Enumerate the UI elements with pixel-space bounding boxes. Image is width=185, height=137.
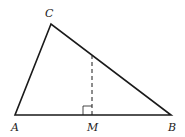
right-angle-marker xyxy=(83,106,92,115)
triangle-abc xyxy=(15,24,171,115)
label-m: M xyxy=(86,121,99,134)
label-c: C xyxy=(45,7,54,20)
triangle-diagram: C A M B xyxy=(0,0,185,137)
label-b: B xyxy=(167,121,176,134)
label-a: A xyxy=(10,121,19,134)
